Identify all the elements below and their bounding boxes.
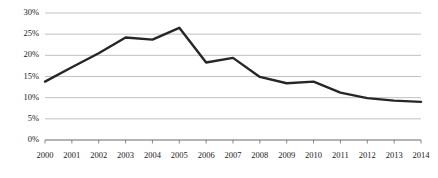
y-axis-tick-label: 30% (5, 8, 39, 17)
gridlines-group (45, 13, 421, 140)
data-series-line (45, 28, 421, 102)
y-axis-tick-label: 5% (5, 114, 39, 123)
y-axis-tick-label: 25% (5, 29, 39, 38)
line-chart: 0%5%10%15%20%25%30% 20002001200220032004… (0, 0, 438, 178)
y-axis-tick-label: 0% (5, 135, 39, 144)
y-axis-tick-label: 10% (5, 93, 39, 102)
x-tick-marks-group (45, 140, 421, 144)
y-axis-tick-label: 20% (5, 50, 39, 59)
y-axis-tick-label: 15% (5, 72, 39, 81)
x-axis-tick-label: 2014 (404, 151, 438, 160)
